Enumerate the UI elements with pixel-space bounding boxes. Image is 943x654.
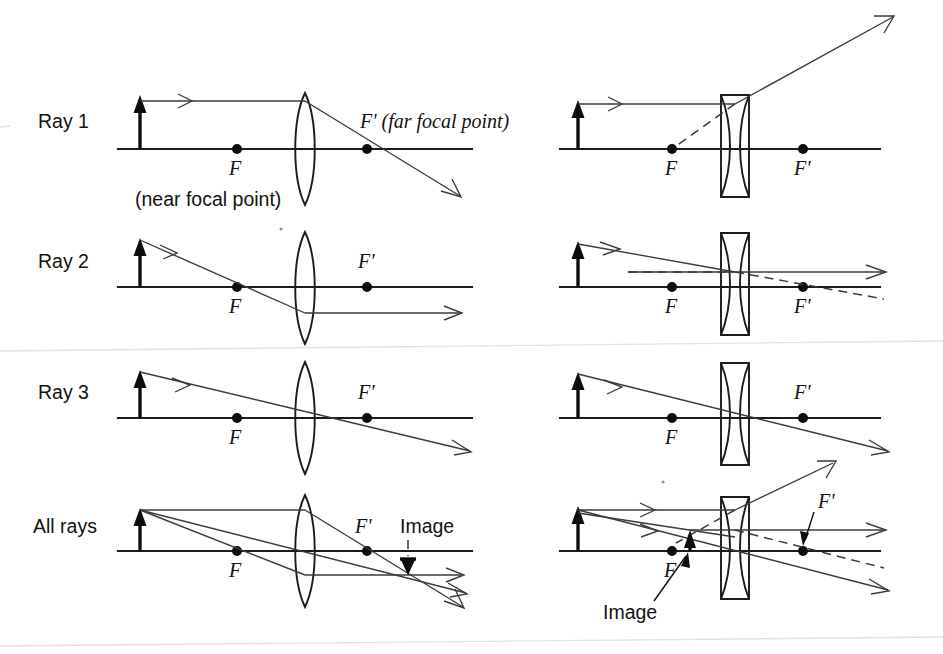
near-focal-point-caption: (near focal point) <box>135 188 281 210</box>
diverging-lens-left-face <box>721 363 730 465</box>
far-focal-point-dot <box>798 144 808 154</box>
scan-artifact <box>0 341 943 351</box>
diverging-lens-right-face <box>740 233 749 335</box>
scan-speck <box>661 480 664 483</box>
diverging-lens-right-face <box>740 95 749 197</box>
far-focal-label: F' <box>793 381 811 403</box>
panel-ray3-converging <box>118 362 472 474</box>
incident-ray-through-near-focus <box>140 240 305 313</box>
row-label-ray-1: Ray 1 <box>38 110 89 132</box>
all-rays-ray2-incident <box>140 510 305 575</box>
object-arrow-head <box>572 506 585 524</box>
near-focal-point-dot <box>232 144 242 154</box>
diverging-lens-left-face <box>721 233 730 335</box>
near-focal-label: F <box>664 295 678 317</box>
near-focal-point-dot <box>667 413 677 423</box>
ray-through-lens-center <box>140 372 470 451</box>
refracted-ray-diverging <box>735 17 893 104</box>
panel-ray3-diverging <box>560 363 889 465</box>
far-focal-label: F' <box>354 515 372 537</box>
diagram-canvas: Ray 1 F F' (far focal point) (near focal… <box>0 0 943 654</box>
object-arrow-head <box>572 241 585 259</box>
incident-ray-toward-far-focus <box>578 244 735 272</box>
row-label-ray-3: Ray 3 <box>38 381 89 403</box>
far-focal-label: F' <box>817 490 835 512</box>
far-focal-point-dot <box>798 546 808 556</box>
diverging-lens-right-face <box>740 497 749 599</box>
row-label-all-rays: All rays <box>33 515 97 537</box>
far-focal-point-dot <box>362 413 372 423</box>
image-label-left: Image <box>400 515 454 537</box>
far-focal-callout-arrowhead <box>800 531 809 546</box>
near-focal-label: F <box>663 559 677 581</box>
panel-allrays-converging <box>118 495 472 608</box>
near-focal-label: F <box>228 295 242 317</box>
far-focal-label-with-caption: F' (far focal point) <box>359 110 510 133</box>
near-focal-label: F <box>228 426 242 448</box>
near-focal-point-dot <box>667 282 677 292</box>
near-focal-label: F <box>664 157 678 179</box>
image-arrow-head <box>401 560 415 575</box>
virtual-ray-extension <box>735 530 884 568</box>
ray-through-lens-center <box>578 374 888 451</box>
far-focal-point-dot <box>362 282 372 292</box>
scan-artifact <box>0 637 943 646</box>
panel-allrays-diverging <box>560 461 889 601</box>
near-focal-label: F <box>228 559 242 581</box>
near-focal-point-dot <box>667 546 677 556</box>
far-focal-label: F' <box>357 381 375 403</box>
far-focal-label: F' <box>793 157 811 179</box>
panel-ray2-diverging <box>560 233 886 335</box>
near-focal-label: F <box>228 157 242 179</box>
near-focal-label: F <box>664 426 678 448</box>
scan-speck <box>280 228 283 231</box>
far-focal-label: F' <box>793 295 811 317</box>
object-arrow-head <box>572 100 585 118</box>
image-label-right: Image <box>603 601 657 623</box>
diverging-lens-left-face <box>721 95 730 197</box>
far-focal-point-dot <box>362 144 372 154</box>
panel-ray1-diverging <box>560 16 894 197</box>
far-focal-point-dot <box>798 413 808 423</box>
row-label-ray-2: Ray 2 <box>38 250 89 272</box>
far-focal-point-caption: F' (far focal point) <box>359 110 510 133</box>
far-focal-label: F' <box>357 250 375 272</box>
near-focal-point-dot <box>232 413 242 423</box>
near-focal-point-dot <box>667 144 677 154</box>
scan-artifact <box>0 126 10 127</box>
lens-ray-diagram-figure: Ray 1 F F' (far focal point) (near focal… <box>0 0 943 654</box>
object-arrow-head <box>134 95 147 113</box>
panel-ray2-converging <box>118 232 472 344</box>
